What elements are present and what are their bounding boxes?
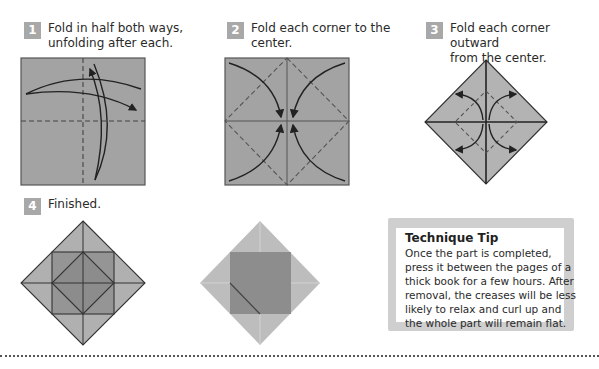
step-1-diagram — [20, 57, 148, 187]
tip-body: Once the part is completed, press it bet… — [405, 246, 577, 330]
finished-model-photo — [198, 219, 322, 347]
step-4-diagram — [19, 219, 147, 347]
step-4-caption: 4 Finished. — [24, 197, 101, 215]
caption-line: Fold in half both ways, — [48, 21, 183, 36]
tip-title: Technique Tip — [405, 231, 498, 245]
caption-line: center. — [251, 36, 390, 51]
step-number-badge: 1 — [24, 22, 41, 39]
step-2-diagram — [224, 57, 351, 187]
step-number-badge: 2 — [227, 22, 244, 39]
dotted-divider — [0, 355, 599, 357]
caption-line: Fold each corner to the — [251, 21, 390, 36]
caption-line: Finished. — [48, 197, 101, 212]
step-number-badge: 4 — [24, 198, 41, 215]
step-3-diagram — [423, 58, 549, 186]
step-1-caption: 1 Fold in half both ways, unfolding afte… — [24, 21, 183, 51]
step-number-badge: 3 — [426, 22, 443, 39]
caption-line: Fold each corner outward — [450, 21, 599, 51]
step-2-caption: 2 Fold each corner to the center. — [227, 21, 390, 51]
caption-line: unfolding after each. — [48, 36, 183, 51]
